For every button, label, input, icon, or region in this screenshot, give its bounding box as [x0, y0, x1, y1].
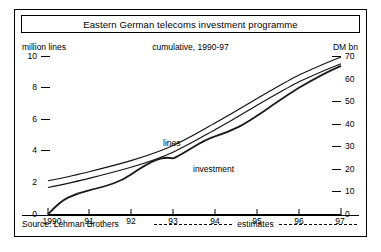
- estimates-dash-right: [279, 224, 357, 225]
- y2tick-label-70: 70: [345, 52, 361, 61]
- series-label-investment: investment: [193, 164, 234, 174]
- y2tick-label-60: 60: [345, 75, 361, 84]
- ytick-dash-4: [41, 150, 50, 151]
- ytick-dash-10: [41, 56, 50, 57]
- y2tick-label-20: 20: [345, 165, 361, 174]
- ytick-label-6: 6: [23, 115, 37, 124]
- series-investment: [48, 66, 341, 215]
- chart-footer: Source: Lehman Brothers estimates: [22, 218, 359, 231]
- ytick-label-10: 10: [23, 52, 37, 61]
- axis-lines: [48, 208, 341, 215]
- ytick-label-8: 8: [23, 83, 37, 92]
- y2tick-label-40: 40: [345, 120, 361, 129]
- y2tick-dash-10: [332, 191, 341, 192]
- plot-area: 10 8 6 4 2 0 70 60 50 40 30 20 10 0 1990…: [15, 10, 368, 238]
- ytick-dash-6: [41, 119, 50, 120]
- chart-figure: Eastern German telecoms investment progr…: [14, 9, 367, 237]
- estimates-label: estimates: [237, 219, 273, 229]
- footer-divider: [22, 215, 359, 216]
- chart-svg: [15, 10, 368, 238]
- y2tick-dash-70: [332, 56, 341, 57]
- ytick-label-4: 4: [23, 146, 37, 155]
- x-tick-marks: [89, 209, 299, 215]
- y2tick-dash-40: [332, 124, 341, 125]
- ytick-dash-8: [41, 87, 50, 88]
- source-label: Source: Lehman Brothers: [22, 219, 119, 229]
- y2tick-label-30: 30: [345, 142, 361, 151]
- y2tick-dash-20: [332, 169, 341, 170]
- y2tick-label-10: 10: [345, 187, 361, 196]
- y2tick-dash-50: [332, 101, 341, 102]
- estimates-marker: estimates: [154, 219, 357, 229]
- y2tick-dash-30: [332, 146, 341, 147]
- ytick-label-2: 2: [23, 178, 37, 187]
- estimates-dash-left: [154, 224, 232, 225]
- series-label-lines: lines: [163, 138, 180, 148]
- y2tick-label-50: 50: [345, 97, 361, 106]
